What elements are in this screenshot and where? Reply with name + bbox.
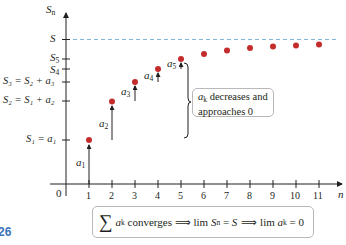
label-a3: a3 bbox=[121, 86, 130, 99]
formula-lim-2: lim bbox=[257, 216, 277, 228]
x-tick-9: 9 bbox=[270, 191, 275, 201]
point-n7 bbox=[224, 48, 230, 54]
convergence-formula: ∑ ak converges ⟹ lim Sn = S ⟹ lim ak = 0 bbox=[92, 206, 314, 238]
x-tick-1: 1 bbox=[86, 191, 91, 201]
y-tick-S1: S₁ = a₁ bbox=[26, 134, 56, 145]
origin-label: 0 bbox=[56, 188, 62, 199]
point-n11 bbox=[316, 42, 322, 48]
decreasing-terms-note: ak decreases and approaches 0 bbox=[192, 88, 274, 117]
brace bbox=[184, 63, 191, 138]
x-tick-4: 4 bbox=[155, 191, 160, 201]
y-tick-S2: S₂ = S₁ + a₂ bbox=[3, 95, 54, 106]
point-n8 bbox=[247, 45, 253, 51]
x-tick-3: 3 bbox=[132, 191, 137, 201]
implies-symbol-2: ⟹ bbox=[241, 216, 257, 229]
point-n6 bbox=[201, 51, 207, 57]
sigma-symbol: ∑ bbox=[99, 211, 113, 233]
note-line-2: approaches 0 bbox=[198, 106, 273, 118]
implies-symbol-1: ⟹ bbox=[175, 216, 191, 229]
point-n9 bbox=[270, 44, 276, 50]
formula-lim-1: lim bbox=[191, 216, 211, 228]
point-n2 bbox=[109, 99, 115, 105]
note-line-1: ak decreases and bbox=[198, 91, 273, 106]
label-a1: a1 bbox=[76, 157, 85, 170]
point-n1 bbox=[86, 137, 92, 143]
y-tick-S3: S₃ = S₂ + a₃ bbox=[3, 76, 54, 87]
x-axis-label: n bbox=[338, 189, 344, 200]
point-n5 bbox=[178, 56, 184, 62]
point-n4 bbox=[155, 66, 161, 72]
x-tick-7: 7 bbox=[224, 191, 229, 201]
formula-eq-2: = 0 bbox=[287, 216, 304, 228]
x-tick-11: 11 bbox=[313, 191, 323, 201]
label-a4: a4 bbox=[144, 70, 153, 83]
x-tick-8: 8 bbox=[247, 191, 252, 201]
point-n10 bbox=[293, 43, 299, 49]
figure-number: 26 bbox=[0, 225, 11, 239]
y-tick-S: S bbox=[50, 33, 56, 44]
formula-S-limit: S bbox=[232, 216, 238, 228]
label-a5: a5 bbox=[167, 58, 176, 71]
point-n3 bbox=[132, 79, 138, 85]
x-tick-10: 10 bbox=[290, 191, 300, 201]
formula-eq-1: = bbox=[220, 216, 232, 228]
formula-converges: converges bbox=[125, 216, 175, 228]
x-tick-6: 6 bbox=[201, 191, 206, 201]
label-a2: a2 bbox=[99, 118, 108, 131]
x-tick-2: 2 bbox=[109, 191, 114, 201]
x-tick-5: 5 bbox=[178, 191, 183, 201]
y-axis-label: Sn bbox=[46, 4, 55, 17]
